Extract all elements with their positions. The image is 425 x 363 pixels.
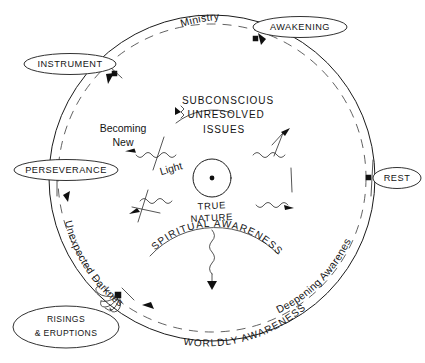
station-rest-label: REST [384,173,411,183]
station-risings-label-line2: & ERUPTIONS [35,328,98,338]
arc-label-deepening-awareness: Deepening Awareness [0,0,353,315]
ray-upper-right [253,128,290,158]
ray-lower-left [129,190,172,222]
ring-arrow-bottom [142,302,154,309]
inner-label-new: New [112,136,133,148]
station-perseverance[interactable]: PERSEVERANCE [14,160,118,181]
diagram-canvas: Ministry WORLDLY AWARENESS Deepening Awa… [0,0,425,363]
inner-label-light: Light [158,159,183,177]
ring-node-awakening[interactable] [253,36,258,41]
ray-down [207,230,217,290]
ring-node-rest[interactable] [366,175,371,180]
station-rest[interactable]: REST [373,168,421,189]
arc-label-ministry: Ministry [179,10,220,29]
station-instrument[interactable]: INSTRUMENT [24,54,116,75]
ring-node-instrument[interactable] [112,71,117,76]
ring-node-risings-eruptions[interactable] [115,292,121,298]
ring-arrow-awakening [258,33,266,45]
center-label-true: TRUE [197,199,226,211]
inner-label-subconscious: SUBCONSCIOUS [182,95,274,106]
station-risings-eruptions[interactable]: RISINGS & ERUPTIONS [13,306,119,348]
center-label-nature: NATURE [190,211,233,224]
true-nature-dot-icon [210,176,215,181]
ring-arrow-perseverance [63,191,70,202]
inner-label-becoming: Becoming [100,122,147,134]
arc-label-unexpected-darkness: Unexpected Darkness [0,0,126,309]
station-awakening-label: AWAKENING [270,22,330,32]
inner-label-issues: ISSUES [203,124,245,135]
arc-label-spiritual-awareness: SPIRITUAL AWARENESS [149,218,285,257]
station-risings-label-line1: RISINGS [47,314,85,324]
ray-right [256,168,294,210]
inner-label-unresolved: UNRESOLVED [187,109,264,120]
station-awakening[interactable]: AWAKENING [253,17,347,38]
station-perseverance-label: PERSEVERANCE [25,165,107,175]
spiritual-cycle-diagram: Ministry WORLDLY AWARENESS Deepening Awa… [0,0,425,363]
station-risings-pill [13,306,119,348]
ray-upper-left [175,106,184,118]
station-instrument-label: INSTRUMENT [37,59,102,69]
